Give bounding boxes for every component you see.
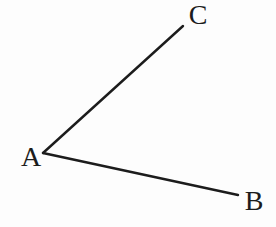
label-B: B bbox=[245, 185, 264, 216]
label-C: C bbox=[189, 0, 208, 30]
ray-AB bbox=[43, 153, 238, 195]
ray-AC bbox=[43, 26, 183, 153]
angle-diagram: A C B bbox=[0, 0, 276, 227]
label-A: A bbox=[21, 141, 42, 172]
diagram-canvas: A C B bbox=[0, 0, 276, 227]
